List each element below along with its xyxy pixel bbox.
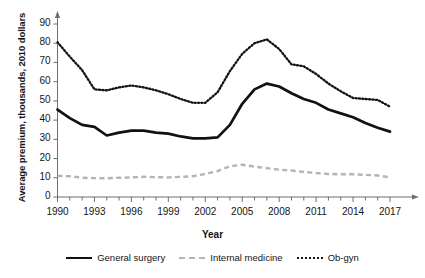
x-tick-label: 1990: [38, 206, 78, 217]
x-tick-label: 2005: [222, 206, 262, 217]
x-tick-label: 2017: [370, 206, 410, 217]
y-tick-label: 50: [25, 94, 51, 105]
chart-figure: Average premium, thousands, 2010 dollars…: [0, 0, 425, 278]
series-line-internal-medicine: [58, 165, 391, 179]
y-tick-label: 70: [25, 55, 51, 66]
x-tick-label: 2002: [185, 206, 225, 217]
x-tick-label: 1999: [148, 206, 188, 217]
legend-item-label: Internal medicine: [210, 252, 282, 263]
x-tick-label: 1993: [74, 206, 114, 217]
legend-item-label: Ob-gyn: [328, 252, 359, 263]
y-tick-label: 90: [25, 17, 51, 28]
x-tick-label: 2011: [296, 206, 336, 217]
y-tick-label: 40: [25, 113, 51, 124]
legend-line-solid-icon: [66, 254, 92, 262]
x-tick-label: 2008: [259, 206, 299, 217]
series-line-ob-gyn: [58, 39, 391, 106]
legend-item[interactable]: Ob-gyn: [297, 252, 359, 263]
y-tick-label: 30: [25, 132, 51, 143]
x-tick-label: 1996: [111, 206, 151, 217]
legend-item-label: General surgery: [97, 252, 165, 263]
legend-item[interactable]: Internal medicine: [179, 252, 282, 263]
y-tick-label: 20: [25, 152, 51, 163]
x-tick-label: 2014: [333, 206, 373, 217]
y-tick-label: 60: [25, 75, 51, 86]
legend-line-dashed-icon: [179, 254, 205, 262]
y-tick-label: 80: [25, 36, 51, 47]
legend-line-dotted-icon: [297, 254, 323, 262]
chart-legend: General surgeryInternal medicineOb-gyn: [0, 252, 425, 263]
y-tick-label: 0: [25, 190, 51, 201]
y-tick-label: 10: [25, 171, 51, 182]
legend-item[interactable]: General surgery: [66, 252, 165, 263]
x-axis-title: Year: [0, 229, 425, 240]
